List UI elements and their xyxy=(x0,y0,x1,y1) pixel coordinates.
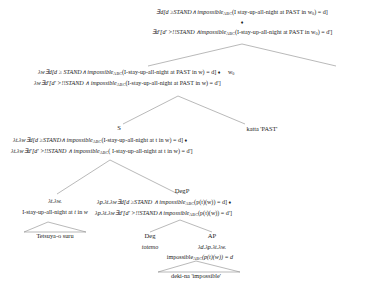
node-label-s: S xyxy=(117,125,121,132)
mid-formula-line2-text: λw∃d'[d' >!!STAND ∧ impossible xyxy=(34,80,117,86)
s-diamond-icon: ♦ xyxy=(185,137,188,143)
triangle-ap xyxy=(158,261,240,272)
root-formula-line1-subscript: ABC xyxy=(223,11,232,16)
branch-s-right xyxy=(110,160,178,194)
branch-mid-left xyxy=(123,96,178,124)
branch-root-left xyxy=(148,44,242,66)
degp-formula-line1-subscript: ABC xyxy=(185,201,194,206)
ap-formula-line2-subscript: ABC xyxy=(193,256,202,261)
s-formula-line1-tail: (I-stay-up-all-night at t in w) = d] xyxy=(101,137,183,143)
mid-diamond-icon: ♦ xyxy=(218,69,221,75)
deg-lexical-item-text: totemo xyxy=(142,244,159,250)
mid-formula-line1-tail: (I-stay-up-all-night at PAST in w) = d] xyxy=(122,69,216,75)
mid-formula-line1: λw∃d[d ≥ STAND∧ impossibleABC(I-stay-up-… xyxy=(38,69,234,76)
mid-formula-line2: λw∃d'[d' >!!STAND ∧ impossibleABC(I-stay… xyxy=(34,80,221,87)
branch-degp-right xyxy=(180,220,212,232)
ap-formula-line1-text: λd.λp.λt.λw. xyxy=(198,244,226,250)
node-label-deg: Deg xyxy=(145,233,156,240)
degp-formula-line1: λp.λt.λw∃d[d ≥STAND ∧ impossibleABC(p(t)… xyxy=(97,199,231,206)
triangle-vp xyxy=(24,222,86,232)
s-formula-line2-tail: ( I-stay-up-all-night at t in w) = d'] xyxy=(108,148,192,154)
ap-formula-line2-tail: (p(t)(w)) = d xyxy=(202,254,233,260)
degp-formula-line1-text: λp.λt.λw∃d[d ≥STAND ∧ impossible xyxy=(97,199,185,205)
s-formula-line2-text: λt.λw∃d'[d' >!!STAND ∧ impossible xyxy=(11,148,100,154)
node-label-degp-text: DegP xyxy=(175,187,190,194)
branch-root-right xyxy=(242,44,336,66)
leaf-dekina-impossible-text: deki-na 'impossible' xyxy=(171,272,221,279)
root-formula-line1: ∃d[d ≥STAND∧ impossibleABC(I stay-up-all… xyxy=(156,9,328,16)
syntax-tree-diagram: ∃d[d ≥STAND∧ impossibleABC(I stay-up-all… xyxy=(0,0,366,293)
leaf-tetsuya-o-suru: Tetsuya-o suru xyxy=(36,233,73,240)
leaf-dekina-impossible: deki-na 'impossible' xyxy=(171,273,221,280)
diamond-icon: ♦ xyxy=(241,19,244,25)
mid-world-label: w0 xyxy=(228,69,235,75)
mid-formula-line2-tail: (I-stay-up-all-night at PAST in w) = d'] xyxy=(125,80,220,86)
root-diamond-marker: ♦ xyxy=(241,20,244,25)
node-label-katta-text: katta 'PAST' xyxy=(247,125,278,132)
mid-formula-line1-text: λw∃d[d ≥ STAND∧ impossible xyxy=(38,69,113,75)
tree-branch-lines xyxy=(0,0,366,293)
degp-formula-line2-subscript: ABC xyxy=(189,212,198,217)
root-formula-line1-end: ) = d] xyxy=(314,9,328,15)
ap-formula-line2-text: impossible xyxy=(167,254,193,260)
degp-formula-line2-text: λp.λt.λw∃d'[d' >!!STAND∧ impossible xyxy=(95,210,189,216)
node-label-ap-text: AP xyxy=(208,232,216,239)
root-formula-line1-text: ∃d[d ≥STAND∧ impossible xyxy=(156,9,223,15)
s-formula-line1: λt.λw∃d[d ≥STAND∧ impossibleABC(I-stay-u… xyxy=(13,137,187,144)
branch-degp-left xyxy=(150,220,180,232)
branch-s-left xyxy=(57,160,110,194)
root-formula-line2-text: ∃d'[d' >!!STAND ∧impossible xyxy=(152,29,227,35)
degp-formula-line1-tail: (p(t)(w)) = d] xyxy=(194,199,227,205)
root-formula-line2-tail: (I-stay-up-all-night at PAST in w xyxy=(235,29,316,35)
s-formula-line1-text: λt.λw∃d[d ≥STAND∧ impossible xyxy=(13,137,93,143)
leaf-tetsuya-o-suru-text: Tetsuya-o suru xyxy=(36,232,73,239)
root-formula-line1-tail: (I stay-up-all-night at PAST in w xyxy=(232,9,312,15)
vp-formula-line2-text: I-stay-up-all-night at t in w xyxy=(22,209,88,215)
degp-formula-line2-tail: (p(t)(w)) = d'] xyxy=(198,210,232,216)
mid-world-subscript: 0 xyxy=(232,71,234,76)
deg-lexical-item: totemo xyxy=(142,244,159,250)
node-label-s-text: S xyxy=(117,124,121,131)
node-label-ap: AP xyxy=(208,233,216,240)
ap-formula-line2: impossibleABC(p(t)(w)) = d xyxy=(167,254,233,261)
node-label-degp: DegP xyxy=(175,188,190,195)
root-formula-line2-subscript: ABC xyxy=(226,31,235,36)
vp-formula-line1: λt.λw. xyxy=(48,198,62,204)
root-formula-line2-end: ) = d'] xyxy=(318,29,333,35)
s-formula-line2: λt.λw∃d'[d' >!!STAND ∧ impossibleABC( I-… xyxy=(11,148,193,155)
degp-diamond-icon: ♦ xyxy=(229,199,232,205)
mid-formula-line1-subscript: ABC xyxy=(113,71,122,76)
vp-formula-line1-text: λt.λw. xyxy=(48,198,62,204)
degp-formula-line2: λp.λt.λw∃d'[d' >!!STAND∧ impossibleABC(p… xyxy=(95,210,232,217)
node-label-katta: katta 'PAST' xyxy=(247,126,278,133)
root-formula-line2: ∃d'[d' >!!STAND ∧impossibleABC(I-stay-up… xyxy=(152,29,333,36)
branch-mid-right xyxy=(178,96,245,124)
node-label-deg-text: Deg xyxy=(145,232,156,239)
ap-formula-line1: λd.λp.λt.λw. xyxy=(198,244,226,250)
vp-formula-line2: I-stay-up-all-night at t in w xyxy=(22,209,88,215)
